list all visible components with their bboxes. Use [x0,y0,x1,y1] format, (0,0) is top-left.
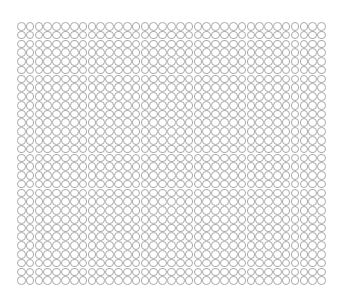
circle-icon [70,136,79,145]
circle-icon [167,118,176,127]
circle-icon [264,40,273,49]
circle-icon [291,276,300,285]
circle-icon [132,57,141,66]
circle-icon [273,48,282,57]
circle-icon [300,224,309,233]
circle-icon [194,66,203,75]
circle-icon [96,276,105,285]
circle-icon [105,276,114,285]
circle-icon [149,241,158,250]
circle-icon [273,224,282,233]
circle-icon [141,154,150,163]
circle-icon [220,189,229,198]
circle-icon [96,66,105,75]
circle-icon [35,92,44,101]
circle-icon [149,171,158,180]
circle-icon [211,118,220,127]
circle-icon [79,118,88,127]
circle-icon [79,241,88,250]
circle-icon [291,154,300,163]
circle-icon [229,241,238,250]
circle-icon [185,259,194,268]
circle-icon [247,232,256,241]
circle-icon [141,206,150,215]
circle-icon [26,276,35,285]
circle-icon [308,154,317,163]
circle-icon [185,189,194,198]
circle-icon [105,171,114,180]
circle-icon [220,57,229,66]
circle-icon [317,92,326,101]
circle-icon [300,189,309,198]
circle-icon [273,127,282,136]
circle-icon [35,162,44,171]
circle-icon [132,197,141,206]
circle-icon [255,66,264,75]
circle-icon [141,110,150,119]
circle-icon [96,118,105,127]
circle-icon [26,127,35,136]
circle-icon [26,180,35,189]
circle-icon [282,197,291,206]
circle-icon [105,118,114,127]
circle-icon [229,250,238,259]
circle-icon [247,75,256,84]
circle-icon [149,92,158,101]
circle-icon [220,162,229,171]
circle-icon [220,215,229,224]
circle-icon [264,224,273,233]
circle-icon [255,127,264,136]
circle-icon [79,40,88,49]
circle-icon [220,83,229,92]
circle-icon [238,180,247,189]
circle-icon [70,110,79,119]
circle-icon [273,171,282,180]
circle-icon [158,162,167,171]
circle-icon [158,232,167,241]
circle-icon [220,250,229,259]
circle-icon [132,22,141,31]
circle-icon [202,206,211,215]
circle-icon [132,48,141,57]
circle-icon [105,57,114,66]
circle-icon [202,101,211,110]
circle-icon [96,206,105,215]
circle-icon [255,145,264,154]
circle-icon [96,57,105,66]
circle-icon [123,136,132,145]
circle-icon [141,92,150,101]
circle-icon [202,154,211,163]
circle-icon [264,101,273,110]
circle-icon [132,110,141,119]
circle-icon [79,215,88,224]
circle-icon [255,101,264,110]
circle-icon [132,224,141,233]
circle-icon [220,232,229,241]
circle-icon [70,241,79,250]
circle-icon [291,197,300,206]
circle-icon [282,22,291,31]
circle-icon [149,101,158,110]
circle-icon [194,22,203,31]
circle-icon [105,206,114,215]
circle-icon [308,145,317,154]
circle-icon [105,66,114,75]
circle-icon [43,40,52,49]
circle-icon [52,75,61,84]
circle-icon [158,259,167,268]
circle-icon [61,145,70,154]
circle-icon [176,180,185,189]
circle-icon [220,171,229,180]
circle-icon [96,259,105,268]
circle-icon [202,145,211,154]
circle-icon [185,127,194,136]
circle-icon [211,40,220,49]
circle-icon [149,57,158,66]
circle-icon [149,154,158,163]
circle-icon [158,92,167,101]
circle-icon [132,276,141,285]
circle-icon [229,22,238,31]
circle-icon [26,136,35,145]
circle-icon [300,92,309,101]
circle-icon [123,83,132,92]
